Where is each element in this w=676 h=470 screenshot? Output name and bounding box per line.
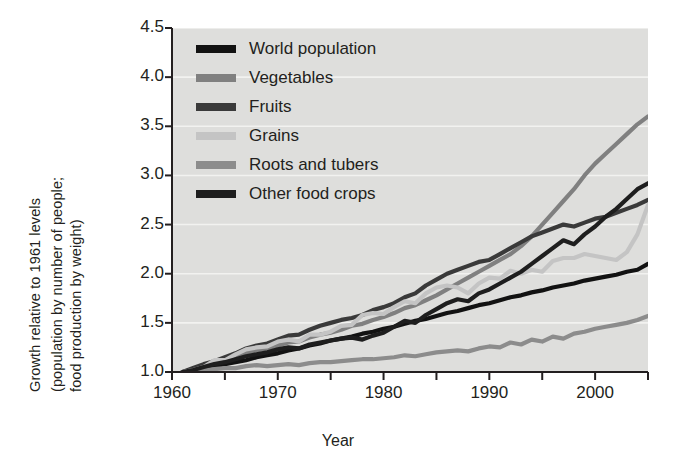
legend-item: Vegetables bbox=[196, 63, 378, 92]
legend-swatch bbox=[196, 190, 236, 198]
chart-legend: World populationVegetablesFruitsGrainsRo… bbox=[196, 34, 378, 208]
legend-swatch bbox=[196, 161, 236, 169]
x-axis-title: Year bbox=[0, 432, 676, 450]
x-tick-label: 1990 bbox=[459, 383, 519, 403]
x-tick-label: 1980 bbox=[354, 383, 414, 403]
legend-item: Other food crops bbox=[196, 179, 378, 208]
x-tick-label: 1960 bbox=[142, 383, 202, 403]
legend-item: Roots and tubers bbox=[196, 150, 378, 179]
legend-swatch bbox=[196, 132, 236, 140]
legend-label: Vegetables bbox=[249, 69, 333, 86]
x-tick-label: 2000 bbox=[565, 383, 625, 403]
legend-label: Fruits bbox=[249, 98, 292, 115]
legend-label: Grains bbox=[249, 127, 299, 144]
legend-swatch bbox=[196, 103, 236, 111]
legend-item: Grains bbox=[196, 121, 378, 150]
legend-label: Other food crops bbox=[249, 185, 376, 202]
legend-item: Fruits bbox=[196, 92, 378, 121]
figure: Growth relative to 1961 levels (populati… bbox=[0, 0, 676, 470]
legend-item: World population bbox=[196, 34, 378, 63]
legend-swatch bbox=[196, 74, 236, 82]
x-tick-label: 1970 bbox=[248, 383, 308, 403]
legend-swatch bbox=[196, 45, 236, 53]
legend-label: Roots and tubers bbox=[249, 156, 378, 173]
legend-label: World population bbox=[249, 40, 376, 57]
